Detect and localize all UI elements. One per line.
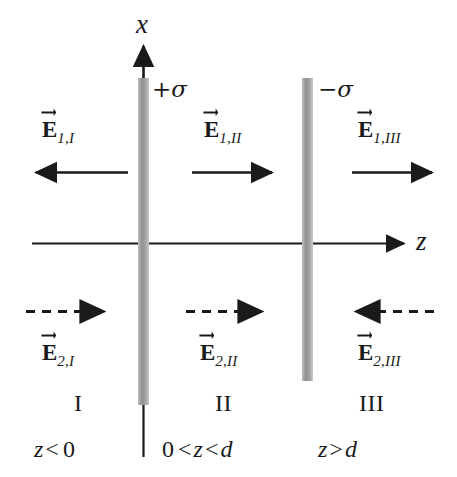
field-label-E1-region-I: E1,I xyxy=(42,116,74,141)
axis-label-z: z xyxy=(416,228,427,255)
sigma-negative-sign: − xyxy=(318,76,337,102)
field-subscript: 2,III xyxy=(373,353,400,369)
sigma-negative-symbol: σ xyxy=(337,76,353,102)
range-operator-1: < xyxy=(176,436,194,462)
region-label-III: III xyxy=(359,391,384,415)
field-symbol: E xyxy=(42,117,57,142)
field-label-E2-region-I: E2,I xyxy=(42,339,74,364)
range-variable: z xyxy=(318,436,327,462)
sheet-positive xyxy=(138,78,149,405)
field-subscript: 2,I xyxy=(57,353,74,369)
field-subscript: 1,III xyxy=(373,130,400,146)
field-symbol: E xyxy=(42,340,57,365)
field-subscript: 1,II xyxy=(219,130,241,146)
range-operator-2: < xyxy=(203,436,221,462)
region-label-I: I xyxy=(74,391,83,415)
region-range-I: z<0 xyxy=(34,437,77,461)
sigma-positive-sign: + xyxy=(152,76,171,102)
range-value-low: 0 xyxy=(160,436,176,462)
range-value: 0 xyxy=(61,436,77,462)
range-variable: z xyxy=(34,436,43,462)
range-variable: z xyxy=(194,436,203,462)
field-label-E1-region-II: E1,II xyxy=(204,116,241,141)
sheet-negative-label: −σ xyxy=(318,78,353,101)
field-subscript: 1,I xyxy=(57,130,74,146)
sigma-positive-symbol: σ xyxy=(171,76,187,102)
sheet-positive-label: +σ xyxy=(152,78,187,101)
field-subscript: 2,II xyxy=(215,353,237,369)
range-operator: > xyxy=(327,436,345,462)
region-range-III: z>d xyxy=(318,437,357,461)
field-label-E1-region-III: E1,III xyxy=(358,116,401,141)
range-value: d xyxy=(345,436,357,462)
field-symbol: E xyxy=(200,340,215,365)
axis-label-x: x xyxy=(136,11,148,38)
field-label-E2-region-III: E2,III xyxy=(358,339,401,364)
sheet-negative xyxy=(302,78,313,381)
range-value-high: d xyxy=(220,436,232,462)
field-symbol: E xyxy=(204,117,219,142)
range-operator: < xyxy=(43,436,61,462)
field-symbol: E xyxy=(358,340,373,365)
region-label-II: II xyxy=(215,391,232,415)
physics-field-diagram: x z +σ −σ E1,I E1,II E1,III xyxy=(0,0,457,477)
region-range-II: 0<z<d xyxy=(160,437,232,461)
field-label-E2-region-II: E2,II xyxy=(200,339,237,364)
field-symbol: E xyxy=(358,117,373,142)
